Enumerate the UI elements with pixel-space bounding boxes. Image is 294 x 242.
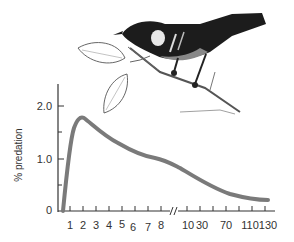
x-tick-label: 2: [80, 219, 86, 231]
x-tick-label: 3: [93, 219, 99, 231]
x-tick-label: 130: [259, 219, 277, 231]
x-tick-label: 8: [158, 219, 164, 231]
x-axis: 1 2 3 4 5 6 7 8 10 30 70 110 130: [58, 206, 277, 233]
predation-curve: [63, 117, 268, 211]
y-tick-label: 1.0: [37, 153, 52, 165]
x-tick-label: 30: [196, 219, 208, 231]
y-axis: 2.0 1.0 0 % predation: [13, 84, 64, 216]
y-axis-label: % predation: [13, 128, 24, 181]
x-tick-label: 70: [220, 219, 232, 231]
x-tick-label: 7: [145, 221, 151, 233]
figure: 2.0 1.0 0 % predation 1 2: [0, 0, 294, 242]
x-tick-label: 4: [106, 219, 112, 231]
bird-illustration: [78, 13, 266, 114]
x-tick-label: 5: [119, 218, 125, 230]
axis-break-icon: [170, 207, 177, 215]
x-tick-label: 6: [130, 221, 136, 233]
x-tick-label: 10: [182, 219, 194, 231]
x-tick-label: 110: [241, 219, 259, 231]
y-tick-label: 2.0: [37, 100, 52, 112]
x-tick-label: 1: [67, 219, 73, 231]
y-tick-label: 0: [46, 204, 52, 216]
